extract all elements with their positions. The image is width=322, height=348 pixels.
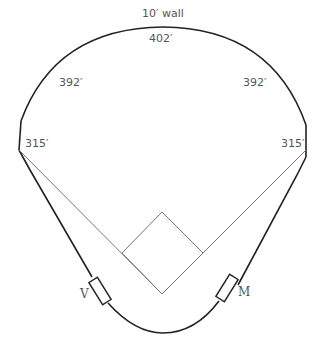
left-center-distance: 392′	[59, 77, 83, 88]
right-field-distance: 315′	[281, 138, 305, 149]
right-backstop-wall	[238, 157, 306, 285]
visitor-dugout	[89, 277, 111, 304]
left-field-wall	[19, 121, 21, 150]
home-dugout	[216, 274, 238, 301]
right-center-distance: 392′	[243, 77, 267, 88]
home-dugout-label: M	[238, 286, 250, 298]
backstop-arc	[108, 301, 219, 333]
visitor-dugout-label: V	[80, 288, 89, 300]
infield-diamond	[122, 212, 203, 294]
baseball-field-diagram	[0, 0, 322, 348]
wall-height-label: 10′ wall	[142, 8, 184, 19]
center-field-distance: 402′	[149, 33, 173, 44]
left-backstop-wall	[19, 150, 92, 277]
left-field-distance: 315′	[25, 138, 49, 149]
